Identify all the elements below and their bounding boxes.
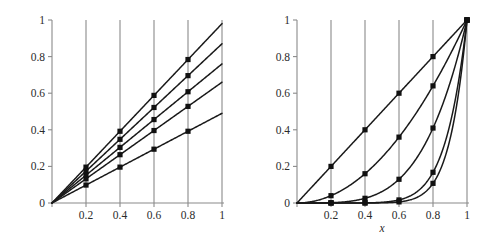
data-point-marker (185, 129, 190, 134)
data-point-marker (117, 137, 122, 142)
x-tick-label-0.6: 0.6 (147, 209, 162, 221)
data-point-marker (430, 170, 435, 175)
data-point-marker (430, 54, 435, 59)
y-tick-label-0.4: 0.4 (31, 124, 46, 136)
figure-root: 00.20.40.60.810.20.40.60.81 00.20.40.60.… (0, 0, 490, 235)
data-point-marker (464, 17, 469, 22)
data-point-marker (430, 125, 435, 130)
y-tick-label-1: 1 (39, 14, 45, 26)
data-point-marker (328, 164, 333, 169)
data-point-marker (117, 145, 122, 150)
data-point-marker (185, 104, 190, 109)
data-point-marker (117, 152, 122, 157)
y-tick-label-0: 0 (284, 197, 290, 209)
x-tick-label-0.2: 0.2 (324, 209, 339, 221)
data-point-marker (151, 147, 156, 152)
x-tick-label-0.4: 0.4 (113, 209, 128, 221)
curve-power-1 (297, 20, 467, 203)
curve-slope-0.76 (52, 64, 222, 203)
data-point-marker (117, 129, 122, 134)
data-point-marker (151, 93, 156, 98)
y-tick-label-0.2: 0.2 (31, 160, 46, 172)
x-tick-label-0.6: 0.6 (392, 209, 407, 221)
chart-panel-left: 00.20.40.60.810.20.40.60.81 (0, 0, 245, 235)
x-tick-label-0.8: 0.8 (181, 209, 196, 221)
data-point-marker (117, 165, 122, 170)
x-axis-title: x (378, 222, 385, 234)
curve-slope-0.98 (52, 24, 222, 203)
x-tick-label-1: 1 (219, 209, 225, 221)
data-point-marker (396, 91, 401, 96)
data-point-marker (396, 177, 401, 182)
data-point-marker (185, 89, 190, 94)
data-point-marker (430, 83, 435, 88)
data-point-marker (83, 176, 88, 181)
data-point-marker (396, 135, 401, 140)
data-point-marker (396, 199, 401, 204)
data-point-marker (151, 128, 156, 133)
data-point-marker (151, 117, 156, 122)
y-tick-label-1: 1 (284, 14, 290, 26)
data-point-marker (362, 196, 367, 201)
data-point-marker (185, 57, 190, 62)
x-tick-label-0.2: 0.2 (79, 209, 94, 221)
chart-panel-right: 00.20.40.60.810.20.40.60.81x (245, 0, 490, 235)
left-plot-svg: 00.20.40.60.810.20.40.60.81 (0, 0, 245, 235)
y-tick-label-0.6: 0.6 (31, 87, 46, 99)
x-tick-label-1: 1 (464, 209, 470, 221)
y-tick-label-0.8: 0.8 (276, 51, 291, 63)
x-tick-label-0.8: 0.8 (426, 209, 441, 221)
data-point-marker (362, 127, 367, 132)
data-point-marker (362, 200, 367, 205)
x-tick-label-0.4: 0.4 (358, 209, 373, 221)
y-tick-label-0.4: 0.4 (276, 124, 291, 136)
data-point-marker (362, 171, 367, 176)
y-tick-label-0.8: 0.8 (31, 51, 46, 63)
data-point-marker (430, 181, 435, 186)
data-point-marker (328, 200, 333, 205)
y-tick-label-0.2: 0.2 (276, 160, 291, 172)
data-point-marker (328, 193, 333, 198)
data-point-marker (83, 182, 88, 187)
curve-slope-0.66 (52, 82, 222, 203)
data-point-marker (185, 73, 190, 78)
right-plot-svg: 00.20.40.60.810.20.40.60.81x (245, 0, 490, 235)
curve-slope-0.87 (52, 44, 222, 203)
y-tick-label-0: 0 (39, 197, 45, 209)
data-point-marker (151, 105, 156, 110)
curve-slope-0.49 (52, 113, 222, 203)
y-tick-label-0.6: 0.6 (276, 87, 291, 99)
